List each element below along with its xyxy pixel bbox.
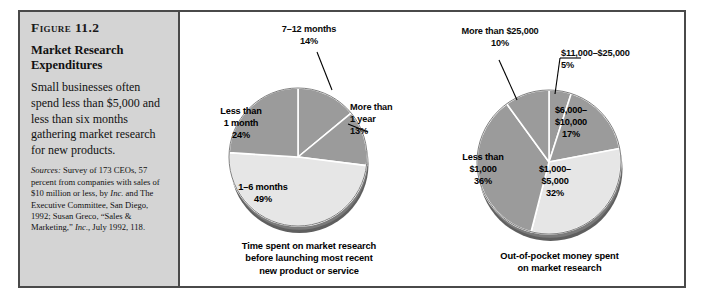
label-line: Time spent on market research <box>242 241 376 251</box>
label-line: Out-of-pocket money spent <box>500 251 618 261</box>
figure-frame: Figure 11.2 Market Research Expenditures… <box>18 10 686 288</box>
label-line: Less than <box>220 106 262 116</box>
sources-inc-2: Inc., <box>75 222 90 232</box>
slice-label-1000-5000: $1,000–$5,00032% <box>517 164 593 200</box>
figure-number: Figure 11.2 <box>31 21 167 36</box>
leader-line <box>499 60 517 100</box>
slice-label-less-than-1-month: Less than1 month24% <box>196 106 286 142</box>
charts-area: 7–12 months14% More than1 year13% 1–6 mo… <box>180 12 684 286</box>
pie-chart-money-spent: $11,000–$25,0005% $6,000–$10,00017% $1,0… <box>433 12 686 288</box>
pie-chart-time-spent: 7–12 months14% More than1 year13% 1–6 mo… <box>180 12 438 288</box>
label-line: 7–12 months <box>282 24 337 34</box>
label-line: on market research <box>518 263 602 273</box>
slice-label-more-than-1-year: More than1 year13% <box>350 102 436 138</box>
figure-title: Market Research Expenditures <box>31 43 167 74</box>
label-line: $1,000 <box>469 164 496 174</box>
figure-description: Small businesses often spend less than $… <box>31 80 167 158</box>
label-line: $5,000 <box>541 176 568 186</box>
leader-line <box>317 52 332 90</box>
label-line: 1–6 months <box>238 182 288 192</box>
label-line: 1 month <box>224 118 259 128</box>
label-line: before launching most recent <box>245 253 372 263</box>
slice-label-more-than-25000: More than $25,00010% <box>435 26 565 50</box>
leader-line <box>555 58 560 94</box>
slice-label-6000-10000: $6,000–$10,00017% <box>531 105 611 141</box>
label-line: $6,000– <box>555 105 587 115</box>
sources-inc-1: Inc. <box>110 188 123 198</box>
label-line: More than <box>350 102 393 112</box>
label-line: More than $25,000 <box>461 26 538 36</box>
label-line: 32% <box>546 188 564 198</box>
slice-label-7-12-months: 7–12 months14% <box>234 24 384 48</box>
label-line: 5% <box>561 60 574 70</box>
label-line: 36% <box>474 176 492 186</box>
label-line: 1 year <box>350 114 376 124</box>
pie-caption-time-spent: Time spent on market researchbefore laun… <box>180 240 438 277</box>
figure-sources: Sources: Survey of 173 CEOs, 57 percent … <box>31 165 167 234</box>
label-line: 10% <box>491 38 509 48</box>
label-line: 13% <box>350 126 368 136</box>
label-line: Less than <box>462 152 504 162</box>
figure-caption-panel: Figure 11.2 Market Research Expenditures… <box>20 12 180 286</box>
label-line: $10,000 <box>555 117 587 127</box>
sources-label: Sources: <box>31 165 61 175</box>
label-line: 49% <box>254 194 272 204</box>
label-line: 24% <box>232 130 250 140</box>
label-line: $1,000– <box>539 164 571 174</box>
pie-caption-money-spent: Out-of-pocket money spenton market resea… <box>433 250 686 275</box>
slice-label-1-6-months: 1–6 months49% <box>203 182 323 206</box>
label-line: 17% <box>562 129 580 139</box>
slice-label-less-than-1000: Less than$1,00036% <box>439 152 527 188</box>
label-line: $11,000–$25,000 <box>561 48 630 58</box>
label-line: new product or service <box>259 266 359 276</box>
label-line: 14% <box>300 36 318 46</box>
slice-label-11000-25000: $11,000–$25,0005% <box>561 48 689 72</box>
sources-text-3: July 1992, 118. <box>90 222 145 232</box>
